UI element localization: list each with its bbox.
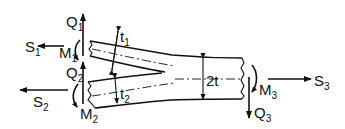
dimension-2t: 2t bbox=[203, 58, 219, 99]
svg-text:t1: t1 bbox=[120, 28, 130, 48]
dimension-t2: t2 bbox=[115, 78, 130, 105]
lower-branch bbox=[88, 73, 242, 108]
moment-M1: M1 bbox=[59, 40, 80, 64]
svg-text:M3: M3 bbox=[259, 81, 278, 101]
moment-M3: M3 bbox=[252, 65, 278, 101]
svg-text:Q3: Q3 bbox=[254, 104, 272, 124]
svg-text:t2: t2 bbox=[120, 85, 130, 105]
branched-beam-diagram: t1 t2 2t Q1 S1 M1 Q2 S2 M2 M3 bbox=[0, 0, 345, 129]
force-S2: S2 bbox=[20, 90, 68, 113]
label-2t: 2t bbox=[206, 72, 219, 89]
svg-text:S1: S1 bbox=[25, 38, 41, 58]
svg-text:Q1: Q1 bbox=[66, 13, 84, 33]
moment-M2: M2 bbox=[73, 84, 98, 125]
force-S3: S3 bbox=[268, 72, 330, 92]
svg-text:Q2: Q2 bbox=[66, 64, 84, 84]
svg-text:S3: S3 bbox=[314, 72, 330, 92]
svg-text:M1: M1 bbox=[59, 44, 78, 64]
force-Q2: Q2 bbox=[66, 62, 84, 104]
svg-text:S2: S2 bbox=[33, 93, 49, 113]
